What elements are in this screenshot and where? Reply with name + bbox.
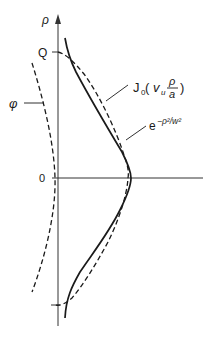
bessel-label-nu: v xyxy=(153,80,161,95)
origin-label: 0 xyxy=(39,172,45,184)
axis-arrow-icon xyxy=(55,14,61,24)
bessel-label: J 0 ( v u ρ a ) xyxy=(133,75,184,100)
bessel-label-open: ( xyxy=(145,80,150,95)
bessel-label-den: a xyxy=(169,88,175,100)
gaussian-label-base: e xyxy=(149,119,156,133)
svg-text:(: ( xyxy=(145,80,150,95)
q-label: Q xyxy=(38,46,47,60)
svg-text:v: v xyxy=(153,80,161,95)
gaussian-label-exp: −ρ²/w² xyxy=(157,116,182,126)
bessel-label-nu-sub: u xyxy=(161,88,166,97)
svg-text:ρ: ρ xyxy=(168,75,175,87)
svg-text:u: u xyxy=(161,88,166,97)
svg-text:−ρ²/w²: −ρ²/w² xyxy=(157,116,182,126)
svg-text:a: a xyxy=(169,88,175,100)
svg-text:e: e xyxy=(149,119,156,133)
bessel-label-main: J xyxy=(133,80,140,95)
diagram-canvas: ρ 0 Q φ J 0 ( v u ρ a ) e −ρ²/w² xyxy=(0,0,214,340)
bessel-label-close: ) xyxy=(180,80,184,95)
svg-text:J: J xyxy=(133,80,140,95)
vertical-axis xyxy=(55,14,61,326)
bessel-curve xyxy=(55,52,128,305)
svg-text:): ) xyxy=(180,80,184,95)
phase-label: φ xyxy=(9,96,18,111)
bessel-leader xyxy=(106,85,128,101)
gaussian-leader xyxy=(126,126,146,140)
gaussian-label: e −ρ²/w² xyxy=(149,116,182,133)
bessel-label-num: ρ xyxy=(168,75,175,87)
rho-axis-label: ρ xyxy=(41,13,49,27)
